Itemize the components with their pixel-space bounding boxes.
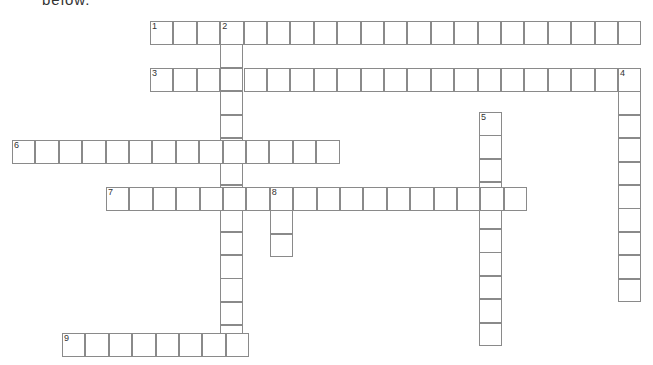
crossword-cell[interactable]: [434, 187, 457, 211]
crossword-cell[interactable]: [618, 138, 641, 162]
crossword-cell[interactable]: [197, 21, 220, 45]
crossword-cell[interactable]: [384, 21, 407, 45]
crossword-cell[interactable]: [618, 255, 641, 279]
crossword-cell[interactable]: [431, 21, 454, 45]
crossword-cell[interactable]: 2: [220, 21, 243, 45]
crossword-cell[interactable]: [501, 21, 524, 45]
crossword-cell[interactable]: [548, 21, 571, 45]
crossword-cell[interactable]: [618, 162, 641, 186]
crossword-cell[interactable]: [504, 187, 527, 211]
crossword-cell[interactable]: [179, 333, 202, 357]
crossword-cell[interactable]: [223, 187, 246, 211]
crossword-cell[interactable]: [220, 161, 243, 185]
crossword-cell[interactable]: [176, 140, 199, 164]
crossword-cell[interactable]: [595, 21, 618, 45]
crossword-cell[interactable]: [479, 323, 502, 347]
crossword-cell[interactable]: [618, 232, 641, 256]
crossword-cell[interactable]: [267, 68, 290, 92]
crossword-cell[interactable]: 9: [62, 333, 85, 357]
crossword-cell[interactable]: [220, 44, 243, 68]
crossword-cell[interactable]: [524, 21, 547, 45]
crossword-cell[interactable]: [618, 185, 641, 209]
crossword-cell[interactable]: [618, 208, 641, 232]
crossword-cell[interactable]: [618, 91, 641, 115]
crossword-cell[interactable]: [153, 187, 176, 211]
crossword-cell[interactable]: [479, 135, 502, 159]
crossword-cell[interactable]: [220, 115, 243, 139]
crossword-cell[interactable]: 8: [270, 187, 293, 211]
crossword-cell[interactable]: [479, 229, 502, 253]
crossword-cell[interactable]: [361, 21, 384, 45]
crossword-cell[interactable]: [548, 68, 571, 92]
crossword-cell[interactable]: [129, 187, 152, 211]
crossword-cell[interactable]: [220, 255, 243, 279]
crossword-cell[interactable]: [270, 234, 293, 258]
crossword-cell[interactable]: [220, 302, 243, 326]
crossword-cell[interactable]: [220, 91, 243, 115]
crossword-cell[interactable]: [267, 21, 290, 45]
crossword-cell[interactable]: [387, 187, 410, 211]
crossword-cell[interactable]: [290, 68, 313, 92]
crossword-cell[interactable]: [244, 21, 267, 45]
crossword-cell[interactable]: [132, 333, 155, 357]
crossword-cell[interactable]: [106, 140, 129, 164]
crossword-cell[interactable]: 7: [106, 187, 129, 211]
crossword-cell[interactable]: [454, 21, 477, 45]
crossword-cell[interactable]: [340, 187, 363, 211]
crossword-cell[interactable]: [314, 68, 337, 92]
crossword-cell[interactable]: [173, 68, 196, 92]
crossword-cell[interactable]: [337, 21, 360, 45]
crossword-cell[interactable]: 5: [479, 112, 502, 136]
crossword-cell[interactable]: [293, 140, 316, 164]
crossword-cell[interactable]: [244, 68, 267, 92]
crossword-cell[interactable]: [314, 21, 337, 45]
crossword-cell[interactable]: [293, 187, 316, 211]
crossword-cell[interactable]: [363, 187, 386, 211]
crossword-cell[interactable]: [246, 187, 269, 211]
crossword-cell[interactable]: [595, 68, 618, 92]
crossword-cell[interactable]: [152, 140, 175, 164]
crossword-cell[interactable]: [618, 21, 641, 45]
crossword-cell[interactable]: [478, 21, 501, 45]
crossword-cell[interactable]: [501, 68, 524, 92]
crossword-cell[interactable]: [197, 68, 220, 92]
crossword-cell[interactable]: [220, 232, 243, 256]
crossword-cell[interactable]: [571, 68, 594, 92]
crossword-cell[interactable]: [199, 140, 222, 164]
crossword-cell[interactable]: [220, 278, 243, 302]
crossword-cell[interactable]: [618, 279, 641, 303]
crossword-cell[interactable]: [407, 21, 430, 45]
crossword-cell[interactable]: [35, 140, 58, 164]
crossword-cell[interactable]: [317, 187, 340, 211]
crossword-cell[interactable]: [220, 68, 243, 92]
crossword-cell[interactable]: 4: [618, 68, 641, 92]
crossword-cell[interactable]: [109, 333, 132, 357]
crossword-cell[interactable]: [479, 299, 502, 323]
crossword-cell[interactable]: [82, 140, 105, 164]
crossword-cell[interactable]: [618, 115, 641, 139]
crossword-cell[interactable]: [85, 333, 108, 357]
crossword-cell[interactable]: [200, 187, 223, 211]
crossword-cell[interactable]: [156, 333, 179, 357]
crossword-cell[interactable]: [129, 140, 152, 164]
crossword-cell[interactable]: [384, 68, 407, 92]
crossword-cell[interactable]: [226, 333, 249, 357]
crossword-cell[interactable]: [59, 140, 82, 164]
crossword-cell[interactable]: [479, 159, 502, 183]
crossword-cell[interactable]: 6: [12, 140, 35, 164]
crossword-cell[interactable]: [524, 68, 547, 92]
crossword-cell[interactable]: [454, 68, 477, 92]
crossword-cell[interactable]: [223, 140, 246, 164]
crossword-cell[interactable]: [173, 21, 196, 45]
crossword-cell[interactable]: [220, 208, 243, 232]
crossword-cell[interactable]: [316, 140, 339, 164]
crossword-cell[interactable]: [202, 333, 225, 357]
crossword-cell[interactable]: [246, 140, 269, 164]
crossword-cell[interactable]: [457, 187, 480, 211]
crossword-cell[interactable]: [571, 21, 594, 45]
crossword-cell[interactable]: [431, 68, 454, 92]
crossword-cell[interactable]: [290, 21, 313, 45]
crossword-cell[interactable]: [176, 187, 199, 211]
crossword-cell[interactable]: [270, 210, 293, 234]
crossword-cell[interactable]: 1: [150, 21, 173, 45]
